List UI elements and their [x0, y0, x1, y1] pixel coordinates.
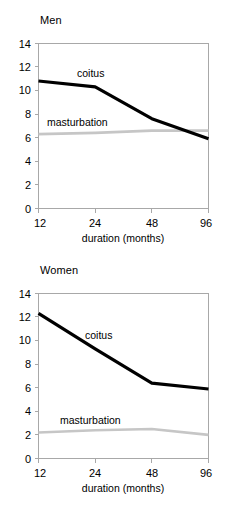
- y-tick-label-women-6: 6: [25, 382, 31, 394]
- y-tick-label-women-2: 2: [25, 429, 31, 441]
- y-tick-label-men-0: 0: [25, 203, 31, 215]
- series-annotation-men-coitus: coitus: [77, 67, 104, 79]
- series-line-women-masturbation: [39, 429, 209, 435]
- y-tick-label-men-14: 14: [19, 38, 31, 50]
- y-tick-marks-women: [35, 294, 39, 459]
- x-tick-label-women-12: 12: [34, 467, 46, 479]
- x-tick-label-men-24: 24: [89, 217, 101, 229]
- x-tick-marks-women: [39, 459, 209, 464]
- x-tick-label-women-96: 96: [200, 467, 212, 479]
- x-tick-label-men-48: 48: [146, 217, 158, 229]
- plot-svg-men: 0 2 4 6 8 10 12 14 12 24 48 96 duration …: [0, 0, 230, 250]
- x-tick-label-women-24: 24: [89, 467, 101, 479]
- series-annotation-women-coitus: coitus: [85, 329, 112, 341]
- x-axis-title-women: duration (months): [82, 482, 164, 494]
- y-tick-label-men-10: 10: [19, 84, 31, 96]
- y-tick-label-men-8: 8: [25, 108, 31, 120]
- series-annotation-women-masturbation: masturbation: [60, 414, 121, 426]
- y-tick-label-women-0: 0: [25, 453, 31, 465]
- y-tick-label-men-4: 4: [25, 155, 31, 167]
- y-tick-label-men-6: 6: [25, 132, 31, 144]
- axis-frame-women: [39, 294, 209, 459]
- y-tick-label-women-14: 14: [19, 288, 31, 300]
- y-tick-label-women-4: 4: [25, 405, 31, 417]
- x-tick-label-women-48: 48: [146, 467, 158, 479]
- y-tick-label-women-10: 10: [19, 334, 31, 346]
- chart-panel-women: Women 0 2 4 6 8 10 12 14: [0, 252, 230, 515]
- y-tick-label-men-2: 2: [25, 179, 31, 191]
- y-tick-marks-men: [35, 44, 39, 209]
- x-tick-label-men-12: 12: [34, 217, 46, 229]
- chart-panel-men: Men 0 2 4 6 8 10 12 14: [0, 0, 230, 250]
- x-tick-label-men-96: 96: [200, 217, 212, 229]
- y-tick-label-men-12: 12: [19, 61, 31, 73]
- series-annotation-men-masturbation: masturbation: [47, 116, 108, 128]
- series-line-women-coitus: [39, 313, 209, 389]
- x-axis-title-men: duration (months): [82, 232, 164, 244]
- y-tick-label-women-8: 8: [25, 358, 31, 370]
- y-tick-label-women-12: 12: [19, 311, 31, 323]
- x-tick-marks-men: [39, 209, 209, 214]
- series-line-men-coitus: [39, 81, 209, 139]
- plot-svg-women: 0 2 4 6 8 10 12 14 12 24 48 96 duration …: [0, 252, 230, 515]
